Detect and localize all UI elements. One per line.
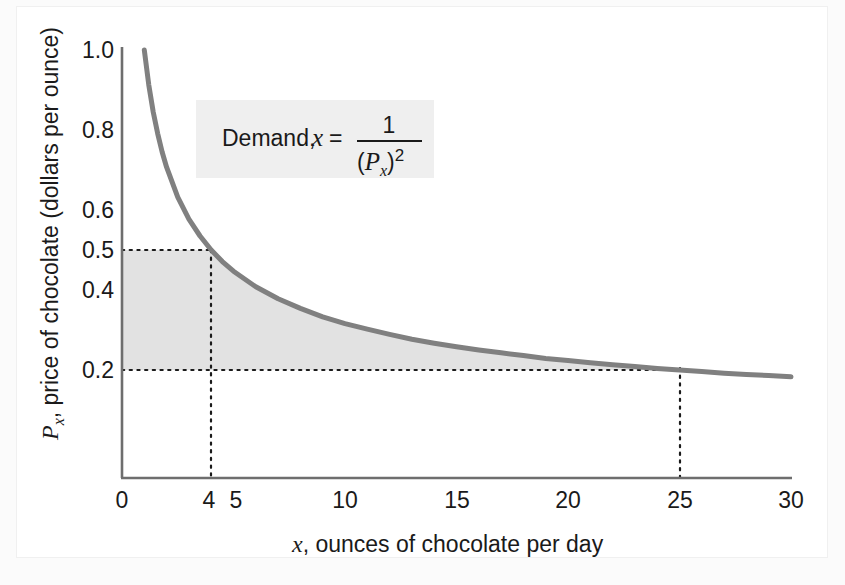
formula-exponent: 2 <box>395 146 404 165</box>
y-axis-title: Px, price of chocolate (dollars per ounc… <box>37 27 67 441</box>
formula-numerator: 1 <box>383 112 396 138</box>
x-tick-label-25: 25 <box>667 487 693 513</box>
y-axis-title-symbol: P <box>37 425 63 441</box>
x-axis-title-rest: , ounces of chocolate per day <box>303 531 604 557</box>
x-axis-title-symbol: x <box>291 531 303 557</box>
consumer-expenditure-area <box>122 250 680 370</box>
formula-equals-sign: = <box>329 125 342 151</box>
x-axis-title-group: x, ounces of chocolate per day <box>291 531 604 557</box>
y-axis-title-group: Px, price of chocolate (dollars per ounc… <box>37 27 67 441</box>
formula-variable-x: x <box>311 124 323 151</box>
x-tick-label-4: 4 <box>203 487 216 513</box>
chart-figure: 1.0 0.8 0.6 0.5 0.4 0.2 0 4 5 10 15 20 2… <box>0 0 845 585</box>
demand-curve-chart: 1.0 0.8 0.6 0.5 0.4 0.2 0 4 5 10 15 20 2… <box>0 0 845 585</box>
y-tick-label-0.2: 0.2 <box>82 357 114 383</box>
y-tick-labels-group: 1.0 0.8 0.6 0.5 0.4 0.2 <box>82 37 114 383</box>
x-tick-label-10: 10 <box>332 487 358 513</box>
formula-annotation: Demand, x = 1 (Px)2 <box>196 100 434 179</box>
y-tick-label-0.6: 0.6 <box>82 197 114 223</box>
x-tick-label-5: 5 <box>230 487 243 513</box>
y-tick-label-0.4: 0.4 <box>82 277 114 303</box>
x-axis-title: x, ounces of chocolate per day <box>291 531 604 557</box>
formula-denominator-symbol: P <box>364 148 380 175</box>
formula-demand-label: Demand, <box>222 125 315 151</box>
y-tick-label-1.0: 1.0 <box>82 37 114 63</box>
x-tick-label-0: 0 <box>116 487 129 513</box>
x-tick-labels-group: 0 4 5 10 15 20 25 30 <box>116 487 804 513</box>
formula-denominator-close-paren: ) <box>387 149 395 175</box>
y-axis-title-subscript: x <box>50 418 67 426</box>
y-tick-label-0.8: 0.8 <box>82 117 114 143</box>
shaded-region-group <box>122 250 680 370</box>
x-tick-label-20: 20 <box>555 487 581 513</box>
y-tick-label-0.5: 0.5 <box>82 237 114 263</box>
x-tick-label-15: 15 <box>444 487 470 513</box>
y-axis-title-rest: , price of chocolate (dollars per ounce) <box>37 27 63 418</box>
formula-denominator-subscript: x <box>379 162 387 179</box>
x-tick-label-30: 30 <box>778 487 804 513</box>
